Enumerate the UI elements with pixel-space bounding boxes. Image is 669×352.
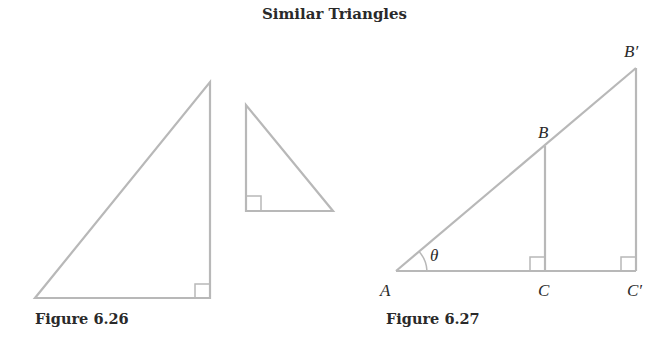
hypotenuse-AB-prime xyxy=(396,68,636,271)
point-A-label: A xyxy=(379,281,391,300)
point-B-label: B xyxy=(538,123,549,142)
diagram-canvas: θ A B C B′ C′ xyxy=(0,0,669,352)
angle-theta-label: θ xyxy=(430,246,438,265)
point-C-prime-label: C′ xyxy=(627,281,642,300)
right-angle-marker-C-prime xyxy=(621,257,636,271)
figure-caption-6-27: Figure 6.27 xyxy=(386,310,480,327)
point-C-label: C xyxy=(538,281,550,300)
small-right-triangle xyxy=(246,105,333,211)
angle-theta-arc xyxy=(419,252,427,272)
large-right-triangle xyxy=(35,82,210,298)
figure-caption-6-26: Figure 6.26 xyxy=(35,310,129,327)
point-B-prime-label: B′ xyxy=(624,42,638,61)
right-angle-marker xyxy=(195,284,210,298)
right-angle-marker-C xyxy=(530,257,545,271)
right-angle-marker xyxy=(246,196,261,211)
